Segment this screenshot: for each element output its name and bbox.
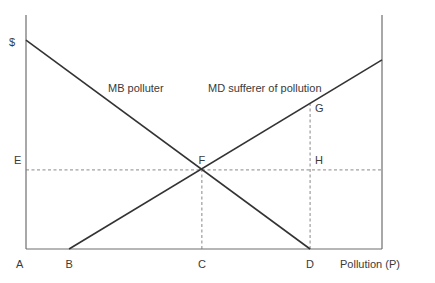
point-label-d: D <box>306 258 314 270</box>
point-label-a: A <box>16 258 24 270</box>
point-label-h: H <box>315 154 323 166</box>
mb-polluter-label: MB polluter <box>108 82 164 94</box>
point-labels: ABCDEFGH <box>14 102 324 270</box>
point-label-g: G <box>315 102 324 114</box>
md-sufferer-label: MD sufferer of pollution <box>208 82 322 94</box>
point-label-f: F <box>198 154 205 166</box>
point-label-c: C <box>198 258 206 270</box>
point-label-e: E <box>14 154 21 166</box>
curve-mb-polluter <box>26 40 310 249</box>
curves <box>26 40 382 249</box>
pollution-diagram: $ Pollution (P) MB polluter MD sufferer … <box>0 0 435 283</box>
x-axis-label: Pollution (P) <box>340 258 400 270</box>
point-label-b: B <box>65 258 72 270</box>
axes <box>26 15 382 249</box>
guide-lines <box>26 104 382 249</box>
y-axis-label: $ <box>9 36 15 48</box>
